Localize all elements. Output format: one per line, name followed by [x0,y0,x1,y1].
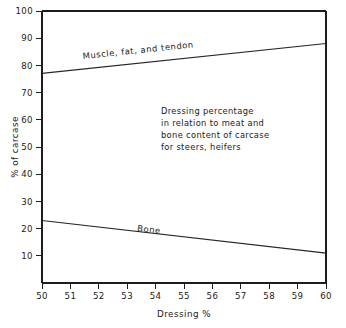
x-tick-label: 57 [235,291,247,301]
y-tick-label: 30 [21,197,33,207]
y-tick-label: 100 [15,6,33,16]
x-tick-label: 56 [207,291,219,301]
y-tick-label: 50 [21,142,33,152]
x-tick-label: 53 [121,291,133,301]
y-tick-label: 60 [21,115,33,125]
series-label-bone: Bone [137,223,162,236]
annotation-line: in relation to meat and [161,118,264,128]
x-tick-label: 52 [93,291,105,301]
y-tick-label: 90 [21,33,33,43]
y-tick-label: 70 [21,88,33,98]
y-axis-ticks [36,11,42,256]
series-line-bone [42,221,326,254]
x-axis-ticks [42,283,326,289]
x-tick-label: 58 [263,291,275,301]
x-axis-title: Dressing % [157,309,211,319]
y-axis-title: % of carcase [10,116,20,178]
x-tick-label: 54 [150,291,162,301]
y-tick-label: 10 [21,251,33,261]
x-tick-label: 55 [178,291,190,301]
x-tick-label: 59 [292,291,304,301]
x-tick-label: 60 [320,291,332,301]
y-tick-label: 40 [21,169,33,179]
annotation-line: for steers, heifers [161,142,241,152]
line-chart: 100 90 80 70 60 50 40 30 20 10 [0,0,346,328]
x-tick-labels: 50 51 52 53 54 55 56 57 58 59 60 [36,291,332,301]
annotation-line: Dressing percentage [161,106,254,116]
y-tick-label: 80 [21,61,33,71]
x-tick-label: 50 [36,291,48,301]
annotation-block: Dressing percentage in relation to meat … [161,106,269,152]
series-label-muscle-fat-tendon: Muscle, fat, and tendon [82,39,194,61]
annotation-line: bone content of carcase [161,130,269,140]
y-tick-label: 20 [21,224,33,234]
chart-figure: 100 90 80 70 60 50 40 30 20 10 [0,0,346,328]
x-tick-label: 51 [65,291,77,301]
